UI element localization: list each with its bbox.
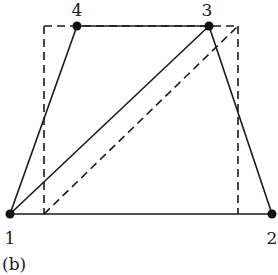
node-1	[6, 210, 15, 219]
diagonal-1-3	[10, 26, 209, 214]
quadrilateral-element-diagram: 1 2 3 4 (b)	[0, 0, 278, 275]
node-4	[73, 22, 82, 31]
dashed-diagonal	[44, 26, 238, 214]
edge-2-3	[209, 26, 272, 214]
node-labels: 1 2 3 4	[5, 0, 278, 248]
panel-label: (b)	[2, 254, 26, 274]
node-2	[268, 210, 277, 219]
node-label-3: 3	[202, 0, 213, 20]
node-label-2: 2	[267, 228, 278, 248]
node-label-1: 1	[5, 228, 16, 248]
node-label-4: 4	[72, 0, 83, 20]
node-3	[205, 22, 214, 31]
dashed-reference-rectangle	[44, 26, 238, 214]
